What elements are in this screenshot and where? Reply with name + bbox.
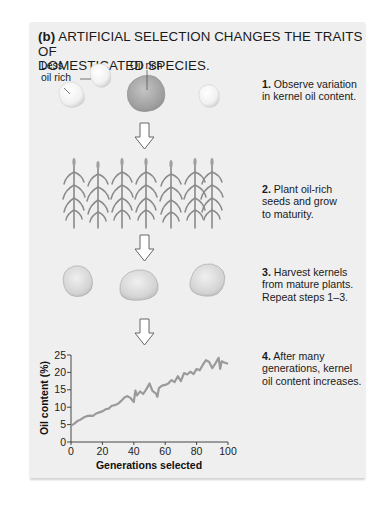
y-tick-label: 0 <box>60 436 66 448</box>
x-tick-label: 80 <box>191 445 203 457</box>
chart-axes <box>67 355 228 445</box>
y-tick-label: 5 <box>60 418 66 430</box>
y-tick-label: 20 <box>54 366 66 378</box>
oil-content-line <box>71 358 228 426</box>
x-tick-label: 20 <box>97 445 109 457</box>
x-tick-label: 60 <box>159 445 171 457</box>
y-tick-label: 15 <box>54 383 66 395</box>
x-axis-label: Generations selected <box>96 459 202 471</box>
y-tick-label: 25 <box>54 349 66 361</box>
x-tick-label: 40 <box>128 445 140 457</box>
x-tick-labels: 020406080100 <box>68 445 237 457</box>
y-tick-labels: 0510152025 <box>54 349 66 448</box>
x-tick-label: 0 <box>68 445 74 457</box>
x-tick-label: 100 <box>219 445 237 457</box>
y-tick-label: 10 <box>54 401 66 413</box>
oil-content-chart: 0510152025 020406080100 Oil content (%) … <box>0 0 383 506</box>
y-axis-label: Oil content (%) <box>38 361 50 435</box>
